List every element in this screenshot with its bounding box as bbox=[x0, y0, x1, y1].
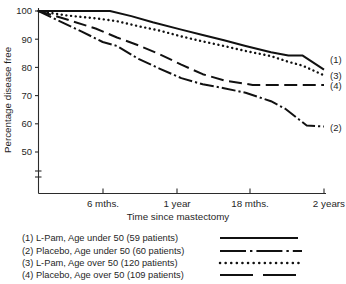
legend-label-2: (2) Placebo, Age under 50 (60 patients) bbox=[22, 246, 218, 256]
x-tick-label-1year: 1 year bbox=[163, 198, 191, 209]
y-tick-label-80: 80 bbox=[21, 62, 32, 73]
legend-swatch-dotted bbox=[218, 257, 304, 269]
x-tick-label-18mths: 18 mths. bbox=[231, 198, 269, 209]
x-ticks bbox=[103, 189, 324, 194]
legend-swatch-solid bbox=[218, 232, 304, 244]
x-tick-label-6mths: 6 mths. bbox=[87, 198, 119, 209]
series-line-2 bbox=[39, 11, 325, 127]
y-tick-label-100: 100 bbox=[16, 5, 32, 16]
legend-label-1: (1) L-Pam, Age under 50 (59 patients) bbox=[22, 233, 218, 243]
y-tick-label-90: 90 bbox=[21, 34, 32, 45]
legend-label-4: (4) Placebo, Age over 50 (109 patients) bbox=[22, 270, 218, 280]
series-tag-4: (4) bbox=[330, 80, 342, 91]
legend-row-3: (3) L-Pam, Age over 50 (120 patients) bbox=[22, 257, 332, 269]
series-line-4 bbox=[39, 11, 325, 85]
legend-row-4: (4) Placebo, Age over 50 (109 patients) bbox=[22, 269, 332, 281]
legend-row-1: (1) L-Pam, Age under 50 (59 patients) bbox=[22, 232, 332, 244]
y-tick-label-50: 50 bbox=[21, 146, 32, 157]
legend-swatch-dashdot bbox=[218, 245, 304, 257]
chart-legend: (1) L-Pam, Age under 50 (59 patients) (2… bbox=[22, 232, 332, 282]
legend-row-2: (2) Placebo, Age under 50 (60 patients) bbox=[22, 244, 332, 256]
x-axis-title: Time since mastectomy bbox=[127, 211, 230, 222]
y-axis-title: Percentage disease free bbox=[2, 46, 13, 153]
series-tag-1: (1) bbox=[330, 54, 342, 65]
y-tick-label-60: 60 bbox=[21, 118, 32, 129]
series-tag-2: (2) bbox=[330, 122, 342, 133]
legend-label-3: (3) L-Pam, Age over 50 (120 patients) bbox=[22, 258, 218, 268]
legend-swatch-longdash bbox=[218, 269, 304, 281]
chart-figure: Percentage disease free 100 90 80 70 60 … bbox=[0, 0, 346, 284]
y-tick-label-70: 70 bbox=[21, 90, 32, 101]
x-tick-label-2years: 2 years bbox=[313, 198, 345, 209]
series-line-1 bbox=[39, 11, 325, 70]
